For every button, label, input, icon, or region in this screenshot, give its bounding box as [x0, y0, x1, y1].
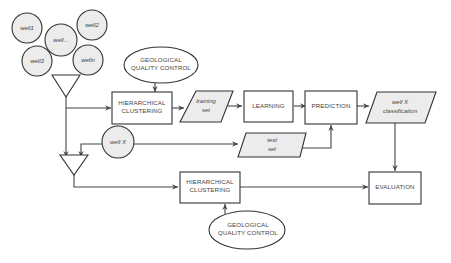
workflow-diagram: well1 well... well2 well3 welln GEOLOGIC…	[0, 0, 451, 263]
learning-label: LEARNING	[252, 102, 285, 109]
classification-line2: classification	[383, 108, 418, 114]
bottom-geological-qc: GEOLOGICAL QUALITY CONTROL	[209, 211, 285, 249]
training-set-line1: training	[196, 98, 216, 104]
top-qc-line1: GEOLOGICAL	[140, 56, 182, 63]
bottom-clustering-line2: CLUSTERING	[190, 186, 231, 193]
well-dots-label: well...	[53, 37, 68, 43]
training-set: training set	[180, 91, 233, 122]
top-clustering-line2: CLUSTERING	[122, 107, 163, 114]
training-set-line2: set	[202, 107, 210, 113]
bottom-clustering-line1: HIERARCHICAL	[186, 178, 234, 185]
evaluation-box: EVALUATION	[369, 172, 421, 204]
well-node-welln: welln	[73, 45, 103, 75]
test-set-line1: test	[267, 137, 277, 143]
bottom-hierarchical-clustering: HIERARCHICAL CLUSTERING	[180, 172, 240, 203]
test-set-line2: set	[268, 146, 276, 152]
edge-bottom-merge-to-clustering	[74, 175, 178, 187]
evaluation-label: EVALUATION	[375, 183, 414, 190]
merge-triangle-bottom	[60, 155, 88, 175]
top-geological-qc: GEOLOGICAL QUALITY CONTROL	[124, 47, 198, 83]
well-x-label: well X	[110, 139, 127, 145]
merge-triangle-top	[52, 75, 80, 97]
bottom-qc-line1: GEOLOGICAL	[227, 221, 269, 228]
well-node-well2: well2	[77, 10, 107, 40]
top-clustering-line1: HIERARCHICAL	[118, 99, 166, 106]
well2-label: well2	[85, 22, 99, 28]
welln-label: welln	[81, 57, 95, 63]
well1-label: well1	[20, 25, 34, 31]
test-set: test set	[238, 133, 306, 157]
well-x-node: well X	[102, 126, 134, 158]
well3-label: well3	[30, 58, 44, 64]
well-x-classification: well X classification	[366, 92, 436, 123]
well-group: well1 well... well2 well3 welln	[12, 10, 107, 76]
well-node-well-dots: well...	[45, 24, 77, 56]
bottom-qc-line2: QUALITY CONTROL	[218, 229, 278, 236]
prediction-box: PREDICTION	[305, 91, 357, 124]
learning-box: LEARNING	[244, 91, 293, 122]
well-node-well1: well1	[12, 13, 42, 43]
classification-line1: well X	[392, 99, 409, 105]
prediction-label: PREDICTION	[311, 102, 350, 109]
top-hierarchical-clustering: HIERARCHICAL CLUSTERING	[112, 92, 172, 124]
well-node-well3: well3	[22, 46, 52, 76]
top-qc-line2: QUALITY CONTROL	[131, 64, 191, 71]
